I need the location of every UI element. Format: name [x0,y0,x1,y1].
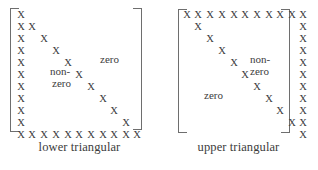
matrix-entry: X [275,9,286,20]
matrix-entry: X [16,45,27,56]
matrix-entry: X [217,45,228,56]
matrix-entry: X [109,105,120,116]
matrix-entry: X [121,117,132,128]
lower-triangular-panel: XXXXXXXXXXXXXXXXXXXXXXXXXXXXXXnon-zeroze… [0,0,159,170]
matrix-entry: X [74,69,85,80]
matrix-entry: X [98,93,109,104]
matrix-entry: X [16,21,27,32]
matrix-entry: X [298,69,309,80]
matrix-entry: X [217,9,228,20]
matrix-entry: X [264,93,275,104]
matrix-entry: X [252,81,263,92]
upper-triangular-matrix: XXXXXXXXXXXXXXXXXXXXXXXXXXXXXXnon-zeroze… [182,9,308,132]
matrix-entry: X [298,45,309,56]
matrix-entry: X [39,33,50,44]
matrix-entry: X [275,105,286,116]
matrix-entry: X [298,93,309,104]
matrix-entry: X [229,9,240,20]
matrix-entry: X [205,33,216,44]
triangular-matrix-figure: XXXXXXXXXXXXXXXXXXXXXXXXXXXXXXnon-zeroze… [0,0,318,170]
matrix-entry: X [16,81,27,92]
matrix-entry: X [16,117,27,128]
region-label: non- [250,54,270,65]
matrix-entry: X [298,105,309,116]
region-label: non- [50,66,70,77]
matrix-entry: X [182,9,193,20]
region-label: zero [52,78,71,89]
matrix-entry: X [193,21,204,32]
matrix-entry: X [27,21,38,32]
matrix-entry: X [298,117,309,128]
matrix-entry: X [51,45,62,56]
region-label: zero [204,90,223,101]
matrix-entry: X [16,33,27,44]
matrix-entry: X [16,69,27,80]
matrix-entry: X [240,9,251,20]
matrix-entry: X [16,57,27,68]
matrix-entry: X [298,33,309,44]
lower-triangular-matrix: XXXXXXXXXXXXXXXXXXXXXXXXXXXXXXnon-zeroze… [16,9,142,132]
matrix-entry: X [287,9,298,20]
matrix-entry: X [16,105,27,116]
matrix-entry: X [287,117,298,128]
matrix-entry: X [86,81,97,92]
matrix-entry: X [240,69,251,80]
upper-triangular-caption: upper triangular [159,139,318,155]
region-label: zero [100,54,119,65]
lower-triangular-caption: lower triangular [0,139,159,155]
region-label: zero [250,66,269,77]
matrix-entry: X [298,21,309,32]
matrix-entry: X [264,9,275,20]
matrix-entry: X [298,81,309,92]
matrix-entry: X [229,57,240,68]
matrix-entry: X [252,9,263,20]
matrix-entry: X [298,57,309,68]
matrix-entry: X [205,9,216,20]
matrix-entry: X [298,9,309,20]
matrix-entry: X [16,9,27,20]
matrix-entry: X [193,9,204,20]
matrix-entry: X [16,93,27,104]
upper-triangular-panel: XXXXXXXXXXXXXXXXXXXXXXXXXXXXXXnon-zeroze… [159,0,318,170]
